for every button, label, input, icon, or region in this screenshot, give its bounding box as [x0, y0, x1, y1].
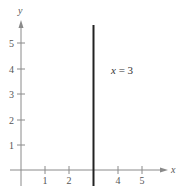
- y-ticks: 1 2 3 4 5: [9, 38, 25, 151]
- x-tick-label-4: 4: [116, 175, 121, 186]
- annotation-value: = 3: [116, 64, 134, 76]
- y-axis-arrow-icon: [19, 20, 24, 28]
- x-tick-label-2: 2: [67, 175, 72, 186]
- chart-plot: y x 1 2 4 5 1 2 3 4 5 x = 3: [0, 0, 180, 196]
- x-axis-label: x: [170, 164, 176, 175]
- x-tick-label-5: 5: [140, 175, 145, 186]
- y-tick-label-5: 5: [9, 38, 14, 49]
- y-tick-label-3: 3: [9, 89, 14, 100]
- y-tick-label-2: 2: [9, 115, 14, 126]
- line-annotation: x = 3: [110, 64, 134, 76]
- y-axis-label: y: [17, 5, 23, 16]
- x-axis-arrow-icon: [160, 168, 168, 173]
- x-tick-label-1: 1: [43, 175, 48, 186]
- y-tick-label-4: 4: [9, 64, 14, 75]
- y-tick-label-1: 1: [9, 140, 14, 151]
